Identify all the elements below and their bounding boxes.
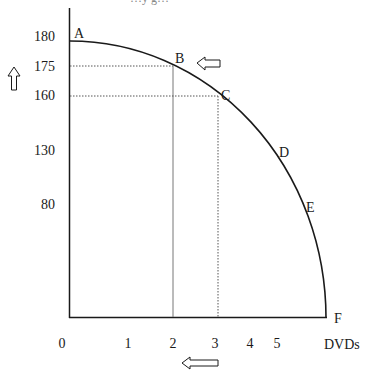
- left-arrow-icon: [197, 57, 220, 70]
- point-label-b: B: [175, 51, 184, 66]
- y-tick-80: 80: [41, 197, 55, 212]
- y-tick-130: 130: [34, 143, 55, 158]
- y-tick-160: 160: [34, 88, 55, 103]
- cut-top-text: …y g…: [130, 0, 169, 5]
- point-label-c: C: [221, 88, 230, 103]
- x-tick-4: 4: [247, 336, 254, 351]
- point-label-d: D: [279, 145, 289, 160]
- point-label-e: E: [306, 200, 315, 215]
- y-tick-180: 180: [34, 29, 55, 44]
- up-arrow-icon: [8, 67, 20, 90]
- left-arrow-icon: [182, 357, 218, 369]
- y-tick-175: 175: [34, 59, 55, 74]
- x-tick-1: 1: [125, 336, 132, 351]
- x-axis-title: DVDs: [324, 337, 360, 352]
- point-label-a: A: [74, 26, 85, 41]
- x-tick-5: 5: [274, 336, 281, 351]
- x-tick-3: 3: [212, 336, 219, 351]
- ppf-curve: [70, 41, 326, 318]
- ppf-diagram: …y g… 180 175 160 130 80 0 1 2 3 4 5 DVD…: [0, 0, 369, 378]
- x-tick-2: 2: [170, 336, 177, 351]
- point-label-f: F: [334, 311, 342, 326]
- x-tick-0: 0: [59, 336, 66, 351]
